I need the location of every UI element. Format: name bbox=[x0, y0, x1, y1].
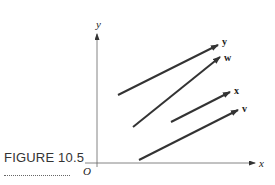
y-axis-label: y bbox=[95, 18, 101, 30]
origin-label: O bbox=[83, 165, 91, 177]
vector-x: x bbox=[171, 85, 239, 122]
axes: y x O bbox=[83, 18, 264, 177]
vector-v-label: v bbox=[242, 103, 247, 114]
vector-diagram: y x O y w x v bbox=[0, 0, 275, 185]
vector-w-label: w bbox=[224, 52, 232, 63]
vector-y-label: y bbox=[222, 36, 227, 47]
vector-x-label: x bbox=[234, 85, 239, 96]
x-axis-label: x bbox=[258, 157, 264, 169]
